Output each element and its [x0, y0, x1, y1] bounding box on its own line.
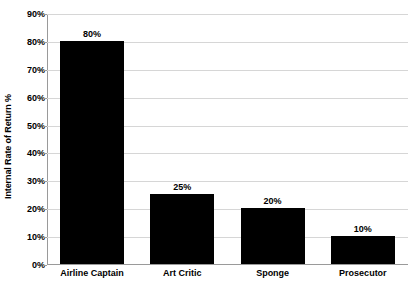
y-axis-tick-mark	[44, 153, 47, 154]
y-axis-tick-mark	[44, 70, 47, 71]
bar-value-label: 10%	[331, 224, 395, 234]
y-axis-tick-label: 20%	[14, 204, 45, 214]
bar-value-label: 25%	[150, 182, 214, 192]
y-axis-tick-mark	[44, 14, 47, 15]
y-axis-tick-mark	[44, 237, 47, 238]
x-axis-category-labels: Airline CaptainArt CriticSpongeProsecuto…	[47, 268, 408, 286]
y-axis-tick-mark	[44, 98, 47, 99]
x-axis-category-label: Art Critic	[137, 268, 227, 278]
gridline	[47, 14, 408, 15]
x-axis-category-label: Airline Captain	[47, 268, 137, 278]
bar-value-label: 20%	[241, 196, 305, 206]
y-axis-tick-label: 70%	[14, 65, 45, 75]
bar	[331, 236, 395, 264]
x-axis-category-label: Prosecutor	[318, 268, 408, 278]
y-axis-tick-mark	[44, 181, 47, 182]
bar-value-label: 80%	[60, 29, 124, 39]
bar	[241, 208, 305, 264]
y-axis-tick-label: 30%	[14, 176, 45, 186]
y-axis-tick-label: 90%	[14, 9, 45, 19]
y-axis-tick-mark	[44, 209, 47, 210]
y-axis-tick-label: 0%	[14, 260, 45, 270]
y-axis-tick-label: 50%	[14, 121, 45, 131]
bar	[150, 194, 214, 264]
y-axis-tick-label: 80%	[14, 37, 45, 47]
y-axis-tick-label: 60%	[14, 93, 45, 103]
bar	[60, 41, 124, 264]
plot-area: 80%25%20%10%	[47, 14, 408, 265]
x-axis-category-label: Sponge	[228, 268, 318, 278]
y-axis-line	[47, 14, 48, 265]
y-axis-tick-mark	[44, 265, 47, 266]
y-axis-tick-label: 10%	[14, 232, 45, 242]
bar-chart: Internal Rate of Return % 0%10%20%30%40%…	[0, 0, 417, 293]
y-axis-tick-mark	[44, 42, 47, 43]
y-axis-tick-labels: 0%10%20%30%40%50%60%70%80%90%	[14, 0, 45, 293]
y-axis-tick-mark	[44, 126, 47, 127]
x-axis-line	[47, 264, 408, 265]
y-axis-tick-label: 40%	[14, 148, 45, 158]
